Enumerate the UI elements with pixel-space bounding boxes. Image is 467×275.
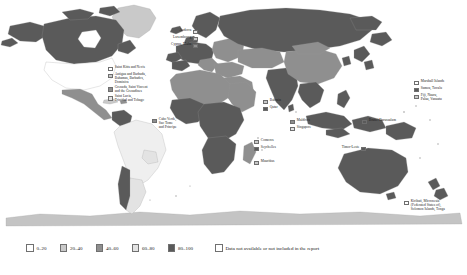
inset-label-text: Grenada, Saint Vincent and the Grenadine… xyxy=(115,86,148,94)
inset-label-text: Timor-Leste xyxy=(342,146,359,150)
inset-entry: Singapore xyxy=(290,126,330,131)
inset-entry: Samoa, Tuvalu xyxy=(414,87,464,92)
legend-label: Data not available or not included in th… xyxy=(226,246,320,251)
color-swatch-icon xyxy=(290,120,295,125)
inset-entry: Andorra xyxy=(179,29,198,34)
legend-swatch-icon xyxy=(215,244,223,252)
inset-label-atlantic-africa: Cabo Verde, Sao Tome and Principe xyxy=(152,118,202,130)
inset-label-indian-ocean-asia: Maldives Singapore xyxy=(290,119,330,131)
color-swatch-icon xyxy=(193,30,198,35)
color-swatch-icon xyxy=(108,87,113,92)
color-swatch-icon xyxy=(414,81,419,86)
color-swatch-icon xyxy=(414,88,419,93)
inset-entry: Bahrain xyxy=(263,99,299,104)
inset-entry: Antigua and Barbuda, Bahamas, Barbados, … xyxy=(108,73,182,85)
color-swatch-icon xyxy=(254,161,259,166)
inset-entry: Kiribati, Micronesia (Federated States o… xyxy=(404,200,466,212)
inset-label-pacific-north: Marshall Islands Samoa, Tuvalu Fiji, Nau… xyxy=(414,80,464,102)
inset-entry: Comoros xyxy=(254,139,294,144)
legend-swatch-icon xyxy=(60,244,68,252)
color-swatch-icon xyxy=(362,120,367,125)
legend-item-60-80[interactable]: 60–80 xyxy=(132,244,155,252)
legend-item-80-100[interactable]: 80–100 xyxy=(168,244,194,252)
inset-label-text: Seychelles xyxy=(261,146,276,150)
inset-label-caribbean: Saint Kitts and Nevis Antigua and Barbud… xyxy=(108,66,182,103)
inset-entry: Cabo Verde, Sao Tome and Principe xyxy=(152,118,202,130)
legend-label: 60–80 xyxy=(142,246,155,251)
inset-label-indian-ocean-africa: Comoros Seychelles Mauritius xyxy=(254,139,294,165)
legend-item-0-20[interactable]: 0–20 xyxy=(26,244,47,252)
color-swatch-icon xyxy=(361,147,366,152)
inset-label-text: Cyprus, Malta xyxy=(171,43,191,47)
inset-label-europe-microstates: Andorra Luxembourg Cyprus, Malta xyxy=(150,29,198,48)
inset-label-brunei: Brunei Darussalam xyxy=(362,119,422,124)
color-swatch-icon xyxy=(254,147,259,152)
inset-entry: Brunei Darussalam xyxy=(362,119,422,124)
legend-item-20-40[interactable]: 20–40 xyxy=(60,244,83,252)
inset-label-text: Saint Lucia, Trinidad and Tobago xyxy=(115,95,144,103)
inset-label-text: Kiribati, Micronesia (Federated States o… xyxy=(411,200,445,212)
legend-swatch-icon xyxy=(168,244,176,252)
inset-entry: Seychelles xyxy=(254,146,294,151)
color-swatch-icon xyxy=(108,74,113,79)
inset-entry: Luxembourg xyxy=(173,36,198,41)
inset-label-text: Andorra xyxy=(179,29,191,33)
inset-label-gulf-states: Bahrain Qatar xyxy=(263,99,299,111)
color-swatch-icon xyxy=(404,201,409,206)
legend-label: 80–100 xyxy=(178,246,193,251)
color-swatch-icon xyxy=(263,100,268,105)
inset-entry: Marshall Islands xyxy=(414,80,464,85)
legend-item-no-data[interactable]: Data not available or not included in th… xyxy=(215,244,319,252)
legend-swatch-icon xyxy=(96,244,104,252)
legend-label: 0–20 xyxy=(37,246,47,251)
inset-entry: Grenada, Saint Vincent and the Grenadine… xyxy=(108,86,182,94)
legend-swatch-icon xyxy=(26,244,34,252)
inset-label-pacific-south: Kiribati, Micronesia (Federated States o… xyxy=(404,200,466,212)
inset-entry: Timor-Leste xyxy=(342,146,366,151)
color-swatch-icon xyxy=(108,67,113,72)
inset-label-text: Maldives xyxy=(297,119,310,123)
color-swatch-icon xyxy=(193,37,198,42)
inset-label-text: Cabo Verde, Sao Tome and Principe xyxy=(159,118,177,130)
inset-label-text: Fiji, Nauru, Palau, Vanuatu xyxy=(421,94,442,102)
color-swatch-icon xyxy=(152,119,157,124)
legend-label: 40–60 xyxy=(106,246,119,251)
inset-entry: Maldives xyxy=(290,119,330,124)
color-swatch-icon xyxy=(263,107,268,112)
color-swatch-icon xyxy=(193,44,198,49)
map-canvas: .ln{stroke:#9a9a9a;stroke-width:0.25;str… xyxy=(0,0,467,232)
color-swatch-icon xyxy=(414,95,419,100)
map-legend: 0–20 20–40 40–60 60–80 80–100 Data not a… xyxy=(0,238,467,258)
inset-label-text: Bahrain xyxy=(270,99,281,103)
inset-entry: Cyprus, Malta xyxy=(171,43,198,48)
inset-label-timor-leste: Timor-Leste xyxy=(324,146,366,151)
inset-entry: Mauritius xyxy=(254,160,294,165)
inset-label-text: Marshall Islands xyxy=(421,80,444,84)
color-swatch-icon xyxy=(290,127,295,132)
inset-label-text: Singapore xyxy=(297,126,311,130)
inset-entry: Saint Kitts and Nevis xyxy=(108,66,182,71)
inset-label-text: Saint Kitts and Nevis xyxy=(115,66,145,70)
legend-swatch-icon xyxy=(132,244,140,252)
legend-label: 20–40 xyxy=(70,246,83,251)
inset-entry: Qatar xyxy=(263,106,299,111)
legend-item-40-60[interactable]: 40–60 xyxy=(96,244,119,252)
inset-label-text: Luxembourg xyxy=(173,36,191,40)
inset-entry: Saint Lucia, Trinidad and Tobago xyxy=(108,95,182,103)
inset-entry: Fiji, Nauru, Palau, Vanuatu xyxy=(414,94,464,102)
inset-label-text: Comoros xyxy=(261,139,274,143)
inset-label-text: Mauritius xyxy=(261,160,275,164)
footer-divider xyxy=(0,268,467,269)
inset-label-text: Samoa, Tuvalu xyxy=(421,87,442,91)
inset-label-text: Qatar xyxy=(270,106,278,110)
inset-label-text: Brunei Darussalam xyxy=(369,119,396,123)
color-swatch-icon xyxy=(108,96,113,101)
inset-label-text: Antigua and Barbuda, Bahamas, Barbados, … xyxy=(115,73,146,85)
world-map-figure: .ln{stroke:#9a9a9a;stroke-width:0.25;str… xyxy=(0,0,467,275)
color-swatch-icon xyxy=(254,140,259,145)
